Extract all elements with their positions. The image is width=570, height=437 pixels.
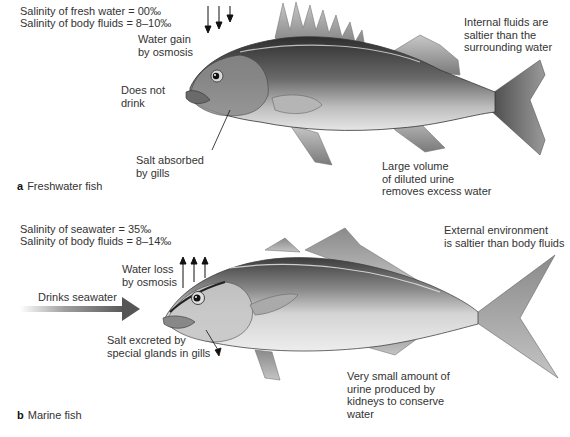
caption-text: Marine fish	[28, 409, 82, 421]
marine-fish-illustration	[0, 0, 570, 437]
caption-marine: bMarine fish	[17, 409, 82, 421]
salt-excreted-label: Salt excreted by special glands in gills	[107, 334, 210, 359]
water-loss-label: Water loss by osmosis	[122, 263, 177, 288]
caption-letter: b	[17, 409, 24, 421]
drinks-seawater-label: Drinks seawater	[38, 291, 117, 304]
external-environment-label: External environment is saltier than bod…	[444, 224, 564, 249]
small-urine-label: Very small amount of urine produced by k…	[347, 370, 450, 420]
